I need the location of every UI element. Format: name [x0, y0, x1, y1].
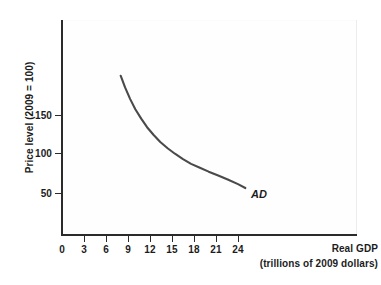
- x-tick-18: [194, 236, 195, 242]
- y-axis-line: [61, 20, 63, 236]
- x-tick-15: [172, 236, 173, 242]
- aggregate-demand-chart: 0 3 6 9 12 15 18 21 24 150 100 50 Price …: [0, 0, 381, 285]
- plot-frame-right: [356, 20, 357, 235]
- x-tick-6: [106, 236, 107, 242]
- plot-area: [62, 20, 357, 235]
- x-tick-24: [238, 236, 239, 242]
- x-tick-21: [216, 236, 217, 242]
- x-axis-subtitle: (trillions of 2009 dollars): [208, 258, 378, 269]
- y-tick-50: [55, 193, 62, 194]
- x-tick-9: [128, 236, 129, 242]
- x-ticklabel-24: 24: [225, 244, 251, 255]
- y-tick-150: [55, 115, 62, 116]
- x-tick-12: [150, 236, 151, 242]
- y-tick-100: [55, 153, 62, 154]
- y-axis-title: Price level (2009 = 100): [24, 43, 35, 193]
- x-axis-title: Real GDP: [260, 243, 378, 254]
- x-tick-3: [84, 236, 85, 242]
- ad-curve-label: AD: [251, 188, 267, 200]
- scan-artifact: [27, 0, 49, 3]
- plot-frame-top: [62, 20, 357, 21]
